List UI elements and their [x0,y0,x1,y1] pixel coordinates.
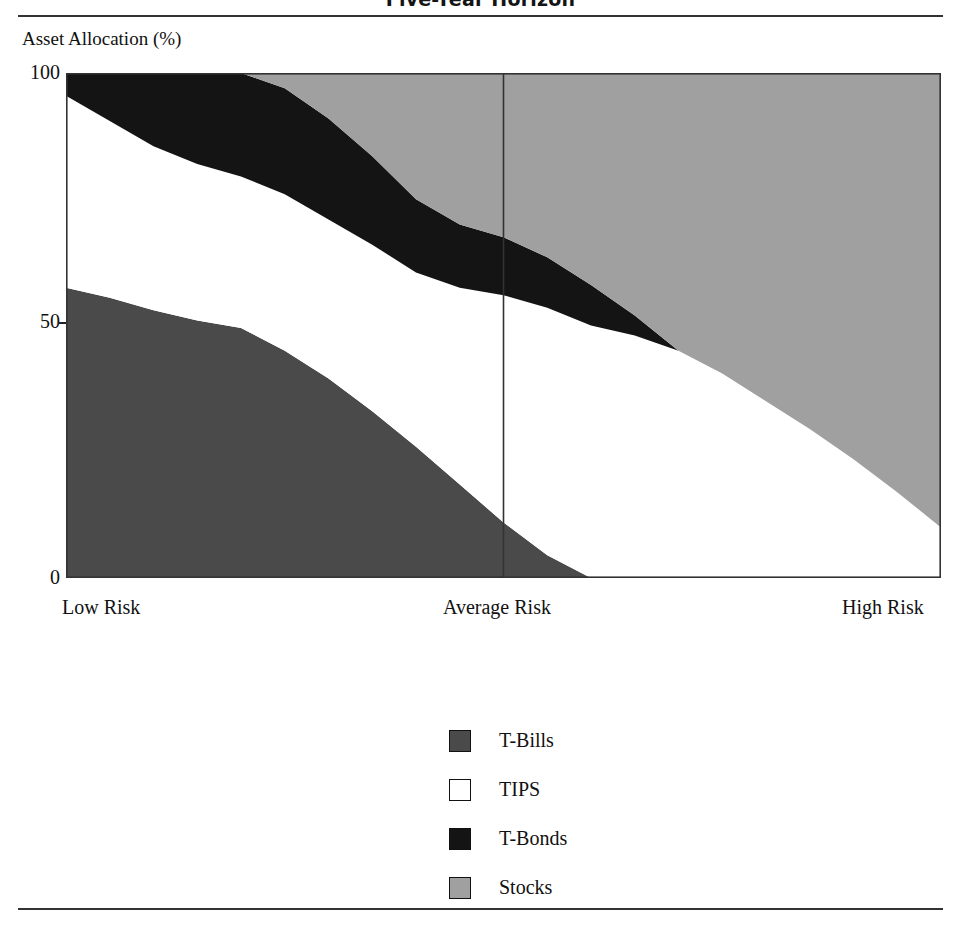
bottom-rule [18,908,943,910]
y-tick-label-50: 50 [8,310,60,333]
x-tick-label-high-risk: High Risk [842,596,924,619]
legend-swatch-icon [449,877,471,899]
legend-swatch-icon [449,828,471,850]
figure-title: Five-Year Horizon [0,0,961,10]
legend-item-label: Stocks [499,876,552,899]
legend-item-tips[interactable]: TIPS [449,765,567,814]
legend-item-label: T-Bonds [499,827,567,850]
stacked-area-chart [66,73,941,578]
legend-swatch-icon [449,730,471,752]
legend-item-t-bonds[interactable]: T-Bonds [449,814,567,863]
y-tick-label-100: 100 [8,61,60,84]
legend-item-stocks[interactable]: Stocks [449,863,567,912]
figure-container: Five-Year Horizon Asset Allocation (%) 1… [0,0,961,929]
legend-item-t-bills[interactable]: T-Bills [449,716,567,765]
legend-item-label: TIPS [499,778,540,801]
x-tick-label-low-risk: Low Risk [62,596,140,619]
y-axis-caption: Asset Allocation (%) [22,28,181,50]
legend-item-label: T-Bills [499,729,554,752]
top-rule [18,15,943,17]
x-tick-label-average-risk: Average Risk [443,596,551,619]
legend-swatch-icon [449,779,471,801]
y-tick-label-0: 0 [8,566,60,589]
chart-legend: T-BillsTIPST-BondsStocks [449,716,567,912]
plot-area [66,73,941,578]
